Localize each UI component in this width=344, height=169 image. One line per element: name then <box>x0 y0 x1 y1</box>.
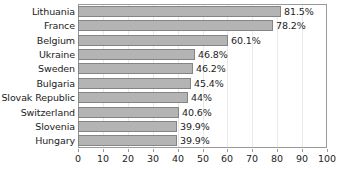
category-label: Ukraine <box>0 49 75 60</box>
x-axis-tick-mark <box>227 149 228 152</box>
x-axis-tick-mark <box>78 149 79 152</box>
x-axis-tick-mark <box>277 149 278 152</box>
x-axis-tick-label: 70 <box>246 153 258 164</box>
x-axis-tick-label: 80 <box>271 153 283 164</box>
x-axis-tick-mark <box>128 149 129 152</box>
x-axis-tick-mark <box>153 149 154 152</box>
x-axis-tick-label: 90 <box>296 153 308 164</box>
value-labels-layer: 81.5%78.2%60.1%46.8%46.2%45.4%44%40.6%39… <box>78 4 344 148</box>
x-axis-tick-label: 10 <box>97 153 109 164</box>
category-label: Sweden <box>0 63 75 74</box>
category-label: Lithuania <box>0 6 75 17</box>
category-label: Hungary <box>0 135 75 146</box>
category-axis-labels: LithuaniaFranceBelgiumUkraineSwedenBulga… <box>0 4 75 148</box>
x-axis-tick-mark <box>252 149 253 152</box>
category-label: Bulgaria <box>0 78 75 89</box>
value-label: 46.8% <box>198 49 228 60</box>
category-label: Switzerland <box>0 107 75 118</box>
value-label: 40.6% <box>182 107 212 118</box>
value-label: 39.9% <box>180 135 210 146</box>
category-label: France <box>0 20 75 31</box>
value-label: 60.1% <box>231 35 261 46</box>
category-label: Belgium <box>0 35 75 46</box>
value-label: 78.2% <box>276 20 306 31</box>
value-label: 81.5% <box>284 6 314 17</box>
value-label: 44% <box>191 92 212 103</box>
x-axis-tick-label: 60 <box>221 153 233 164</box>
category-label: Slovenia <box>0 121 75 132</box>
x-axis-tick-mark <box>302 149 303 152</box>
x-axis-tick-label: 50 <box>197 153 209 164</box>
value-label: 45.4% <box>194 78 224 89</box>
x-axis-tick-mark <box>203 149 204 152</box>
x-axis-tick-label: 30 <box>147 153 159 164</box>
x-axis-tick-label: 0 <box>75 153 81 164</box>
x-axis-tick-label: 20 <box>122 153 134 164</box>
x-axis-tick-label: 100 <box>318 153 336 164</box>
value-label: 39.9% <box>180 121 210 132</box>
x-axis-tick-mark <box>327 149 328 152</box>
value-label: 46.2% <box>196 63 226 74</box>
category-label: Slovak Republic <box>0 92 75 103</box>
bar-chart: LithuaniaFranceBelgiumUkraineSwedenBulga… <box>0 0 344 169</box>
x-axis-tick-label: 40 <box>172 153 184 164</box>
x-axis-tick-mark <box>178 149 179 152</box>
x-axis-tick-mark <box>103 149 104 152</box>
x-axis: 0102030405060708090100 <box>0 149 344 169</box>
